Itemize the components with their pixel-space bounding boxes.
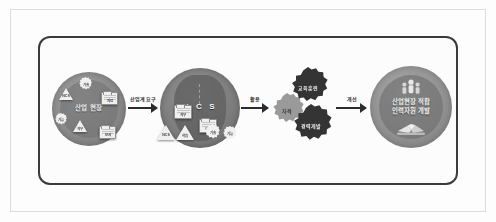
- arrow-utilize-label: 활용: [241, 95, 269, 102]
- gear-skill-label: 기능: [223, 131, 237, 136]
- stage-outcome: 산업현장 적합 인력자원 개발: [370, 66, 452, 148]
- arrow-industry-demand-label: 산업계 요구: [128, 95, 158, 102]
- arrow-line: [128, 107, 152, 109]
- stage-ncs-divider: [199, 84, 200, 104]
- folder-data-icon: 자료: [101, 92, 118, 105]
- folder-duty-label: 직무: [175, 112, 191, 117]
- gear-skill-label: 기능: [55, 117, 67, 122]
- arrow-utilize: 활용: [241, 101, 269, 115]
- triangle-ncs-label: NCS: [57, 94, 75, 98]
- handshake-icon: [396, 120, 426, 136]
- stage-outcome-text: 산업현장 적합 인력자원 개발: [370, 97, 452, 115]
- triangle-shape: 직무: [73, 120, 87, 132]
- triangle-job-icon: 직무: [73, 120, 87, 132]
- people-group-icon: [400, 79, 422, 95]
- arrow-head: [262, 103, 269, 113]
- arrow-improve: 개선: [336, 101, 368, 115]
- folder-data-label: 자료: [102, 98, 117, 103]
- arrow-head: [360, 103, 367, 113]
- arrow-line: [241, 107, 263, 109]
- gear-tech-label: 기술: [205, 129, 220, 134]
- triangle-job-label: 직무: [71, 126, 89, 131]
- triangle-ncs-icon: NCS: [157, 125, 175, 140]
- arrow-industry-demand: 산업계 요구: [128, 101, 158, 115]
- arrow-head: [151, 103, 158, 113]
- diagram-canvas: 산업 현장 NCS 기술 기능 직무 자료 문서 산업계 요구 N C S: [0, 0, 496, 222]
- triangle-shape: 학습: [176, 125, 194, 140]
- triangle-learning-icon: 학습: [176, 125, 194, 140]
- stage-ncs-label: N C S: [160, 102, 240, 111]
- folder-duty-icon: 직무: [174, 105, 192, 119]
- stage-outcome-line1: 산업현장 적합: [370, 97, 452, 106]
- triangle-learning-label: 학습: [176, 133, 194, 138]
- triangle-shape: NCS: [157, 125, 175, 140]
- arrow-line: [336, 107, 361, 109]
- gear-tech-label: 기술: [79, 81, 92, 86]
- folder-document-icon: 문서: [99, 126, 116, 139]
- folder-document-label: 문서: [100, 132, 115, 137]
- stage-outcome-line2: 인력자원 개발: [370, 106, 452, 115]
- triangle-shape: NCS: [59, 88, 73, 100]
- arrow-improve-label: 개선: [336, 95, 368, 102]
- triangle-ncs-icon: NCS: [59, 88, 73, 100]
- triangle-ncs-label: NCS: [157, 133, 175, 137]
